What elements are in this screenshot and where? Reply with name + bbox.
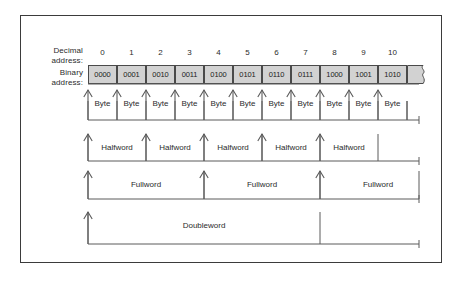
decimal-address-label-line2: address:	[25, 56, 83, 66]
decimal-address-10: 10	[378, 48, 407, 57]
memory-cell-3: 0011	[175, 65, 204, 84]
memory-cell-1: 0001	[117, 65, 146, 84]
memory-cell-10: 1010	[378, 65, 407, 84]
halfword-label: Halfword	[333, 143, 365, 152]
decimal-address-9: 9	[349, 48, 378, 57]
figure-frame: Decimal address: Binary address: 0123456…	[20, 15, 442, 263]
torn-edge-icon	[407, 65, 432, 84]
memory-cell-0: 0000	[88, 65, 117, 84]
decimal-address-8: 8	[320, 48, 349, 57]
decimal-address-label-line1: Decimal	[25, 46, 83, 56]
decimal-address-1: 1	[117, 48, 146, 57]
halfword-label: Halfword	[159, 143, 191, 152]
memory-cell-9: 1001	[349, 65, 378, 84]
memory-cell-5: 0101	[233, 65, 262, 84]
memory-cell-6: 0110	[262, 65, 291, 84]
memory-cell-8: 1000	[320, 65, 349, 84]
memory-cell-7: 0111	[291, 65, 320, 84]
byte-label: Byte	[355, 99, 371, 108]
binary-address-label-line1: Binary	[25, 68, 83, 78]
halfword-label: Halfword	[217, 143, 249, 152]
memory-layout-diagram: Decimal address: Binary address: 0123456…	[21, 16, 443, 264]
byte-label: Byte	[94, 99, 110, 108]
binary-address-label-line2: address:	[25, 78, 83, 88]
doubleword-label: Doubleword	[183, 221, 226, 230]
byte-label: Byte	[152, 99, 168, 108]
binary-address-label: Binary address:	[25, 68, 83, 87]
decimal-address-5: 5	[233, 48, 262, 57]
decimal-address-2: 2	[146, 48, 175, 57]
decimal-address-0: 0	[88, 48, 117, 57]
memory-cell-4: 0100	[204, 65, 233, 84]
byte-label: Byte	[210, 99, 226, 108]
fullword-label: Fullword	[247, 180, 277, 189]
fullword-label: Fullword	[131, 180, 161, 189]
decimal-address-6: 6	[262, 48, 291, 57]
byte-label: Byte	[326, 99, 342, 108]
decimal-address-4: 4	[204, 48, 233, 57]
decimal-address-7: 7	[291, 48, 320, 57]
byte-label: Byte	[384, 99, 400, 108]
decimal-address-label: Decimal address:	[25, 46, 83, 65]
byte-label: Byte	[239, 99, 255, 108]
byte-label: Byte	[268, 99, 284, 108]
byte-label: Byte	[181, 99, 197, 108]
halfword-label: Halfword	[101, 143, 133, 152]
byte-label: Byte	[297, 99, 313, 108]
fullword-label: Fullword	[363, 180, 393, 189]
decimal-address-3: 3	[175, 48, 204, 57]
memory-cell-2: 0010	[146, 65, 175, 84]
byte-label: Byte	[123, 99, 139, 108]
halfword-label: Halfword	[275, 143, 307, 152]
